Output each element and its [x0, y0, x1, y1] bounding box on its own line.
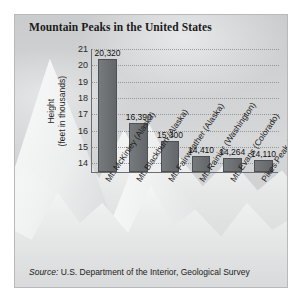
- gridline: [92, 98, 279, 99]
- y-axis-tick-label: 14: [78, 158, 88, 168]
- gridline: [92, 65, 279, 66]
- source-note: Source: U.S. Department of the Interior,…: [29, 267, 250, 277]
- chart-title: Mountain Peaks in the United States: [29, 21, 212, 33]
- chart-panel: Mountain Peaks in the United States Heig…: [14, 14, 288, 288]
- y-axis-tick-label: 19: [78, 77, 88, 87]
- bar-value-label: 20,320: [95, 48, 121, 58]
- y-axis-tick-label: 18: [78, 93, 88, 103]
- y-axis-title-line-1: Height: [46, 99, 56, 124]
- source-text: U.S. Department of the Interior, Geologi…: [58, 267, 249, 277]
- bar: [98, 59, 117, 172]
- y-axis-tick-label: 16: [78, 126, 88, 136]
- y-axis-title-line-2: (feet in thousands): [57, 76, 67, 146]
- y-axis-title: Height (feet in thousands): [45, 49, 67, 173]
- y-axis-tick-label: 20: [78, 60, 88, 70]
- y-axis-tick-label: 21: [78, 44, 88, 54]
- gridline: [92, 131, 279, 132]
- source-prefix: Source:: [29, 267, 58, 277]
- y-axis-tick-label: 17: [78, 109, 88, 119]
- y-axis-tick-label: 15: [78, 142, 88, 152]
- gridline: [92, 82, 279, 83]
